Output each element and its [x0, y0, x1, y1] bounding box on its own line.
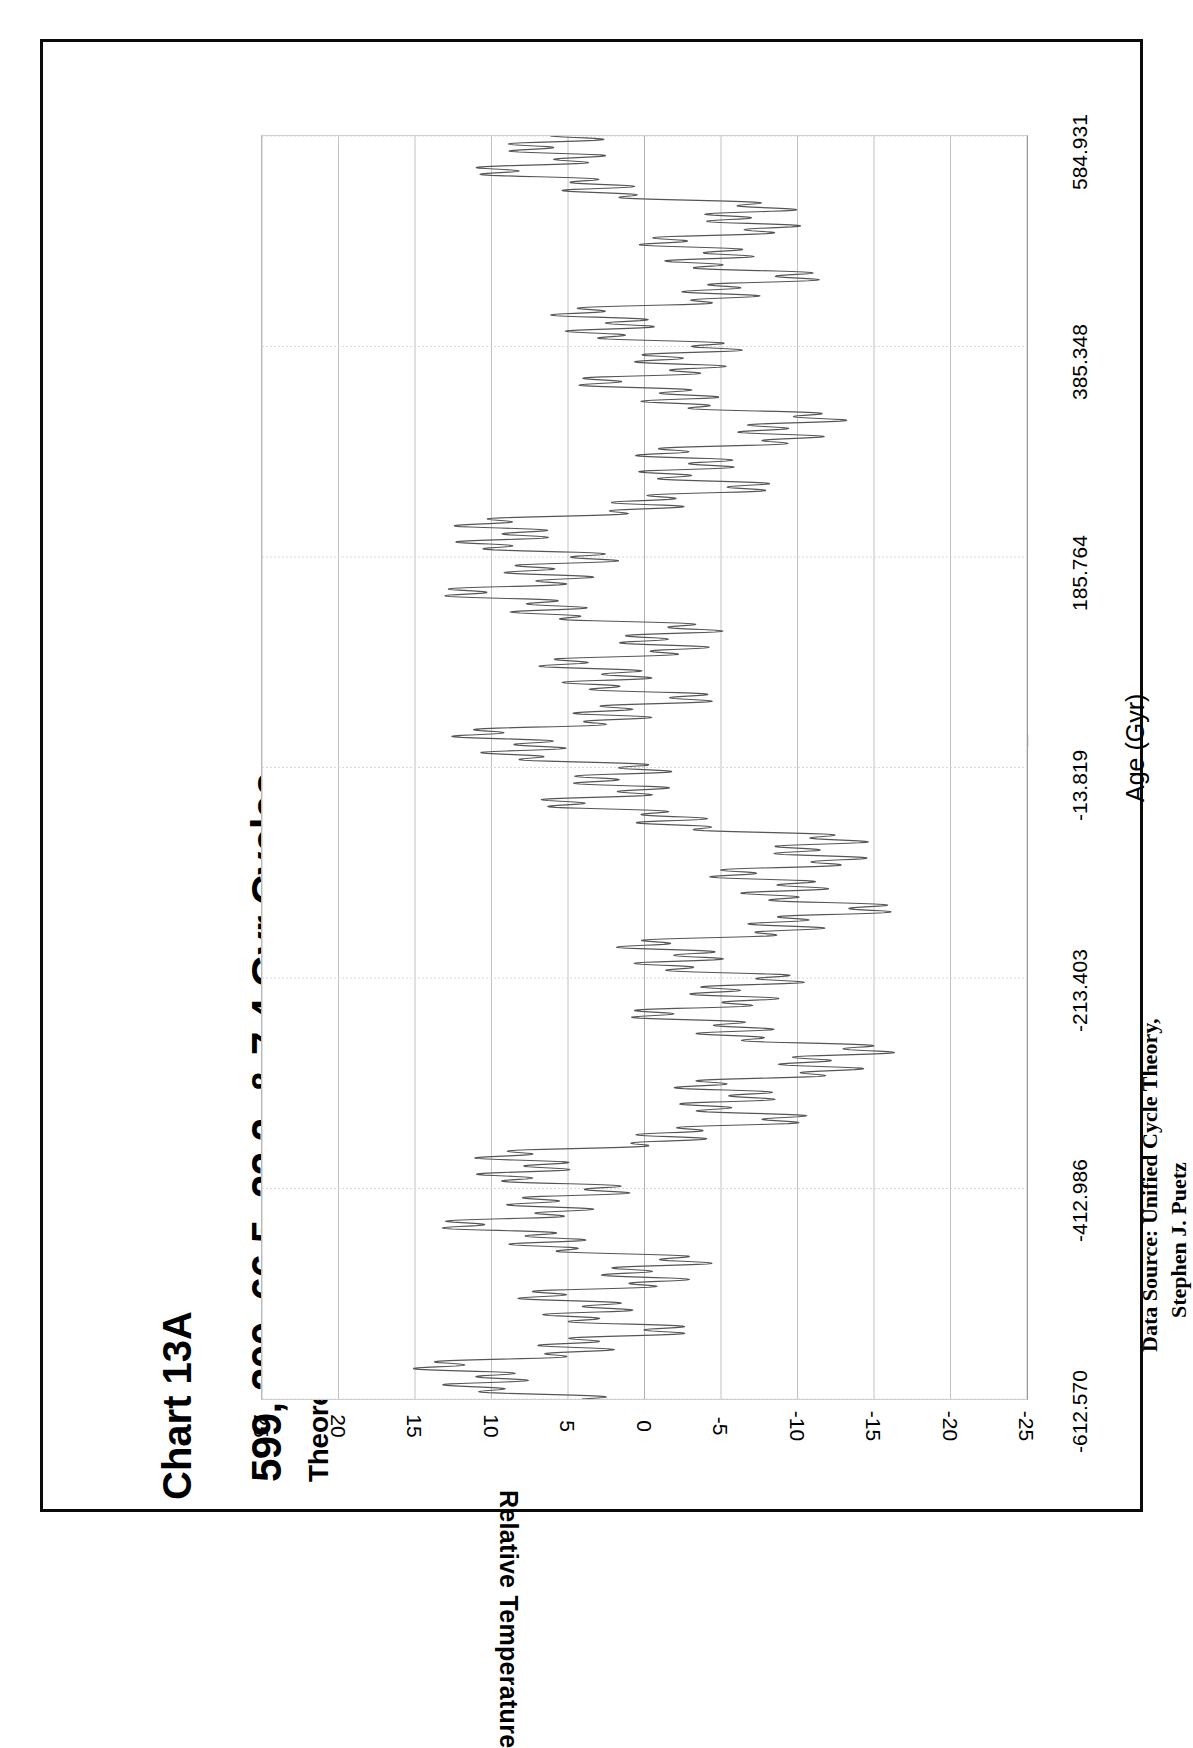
category-axis-tick-label: 385.348: [1068, 325, 1092, 401]
category-axis-tick-label: 584.931: [1068, 114, 1092, 190]
value-axis-tick-label: 20: [326, 1396, 350, 1456]
category-axis-title: Age (Gyr): [1121, 694, 1150, 802]
chart-number-label: Chart 13A: [155, 1311, 200, 1500]
category-axis-tick-label: -13.819: [1068, 750, 1092, 821]
value-axis-tick-label: -5: [708, 1396, 732, 1456]
plot-area: [261, 135, 1028, 1400]
plot-canvas: [262, 136, 1027, 1399]
data-source-line-1: Data Source: Unified Cycle Theory,: [1137, 1019, 1162, 1352]
category-axis-tick-label: -213.403: [1068, 949, 1092, 1032]
figure-border-frame: Chart 13A 599, 200, 66.5, 22,2, & 7.4 Gy…: [40, 39, 1143, 1512]
data-source-line-2: Stephen J. Puetz: [1164, 1019, 1193, 1352]
category-axis-tick-label: -412.986: [1068, 1160, 1092, 1243]
data-source-note: Data Source: Unified Cycle Theory, Steph…: [1135, 1019, 1193, 1352]
value-axis-title: Relative Temperature: [494, 1490, 523, 1748]
category-axis-tick-label: -612.570: [1068, 1370, 1092, 1453]
value-axis-tick-label: -20: [938, 1396, 962, 1456]
value-axis-tick-label: 5: [555, 1396, 579, 1456]
value-axis-tick-label: 15: [402, 1396, 426, 1456]
value-axis-tick-label: -25: [1014, 1396, 1038, 1456]
value-axis-tick-label: -10: [785, 1396, 809, 1456]
value-axis-tick-label: -15: [861, 1396, 885, 1456]
category-axis-tick-label: 185.764: [1068, 535, 1092, 611]
value-axis-tick-label: 25: [249, 1396, 273, 1456]
value-axis-tick-label: 10: [479, 1396, 503, 1456]
value-axis-tick-label: 0: [632, 1396, 656, 1456]
